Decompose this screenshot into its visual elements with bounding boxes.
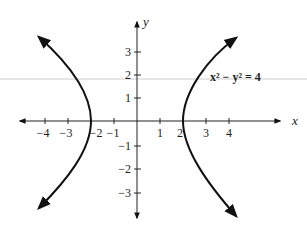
svg-text:3: 3 [203,126,209,140]
hyperbola-left-branch [39,37,91,208]
y-axis-label: y [141,14,149,29]
y-tick-labels: 3 2 1 −1 −2 −3 [118,45,131,200]
svg-text:2: 2 [177,126,183,140]
svg-text:4: 4 [226,126,232,140]
svg-text:−3: −3 [118,186,131,200]
svg-text:2: 2 [125,68,131,82]
equation-label: x² − y² = 4 [210,70,261,84]
x-tick-labels: −4 −3 −2 −1 1 2 3 4 [37,126,232,140]
svg-text:−1: −1 [118,139,131,153]
svg-text:−3: −3 [60,126,73,140]
svg-text:1: 1 [157,126,163,140]
hyperbola-plot: x y −4 −3 −2 −1 1 2 3 4 3 2 1 −1 −2 −3 [0,0,307,231]
svg-text:−4: −4 [37,126,50,140]
x-axis-label: x [291,113,298,128]
svg-text:−1: −1 [107,126,120,140]
svg-text:−2: −2 [118,162,131,176]
svg-text:3: 3 [125,45,131,59]
svg-text:1: 1 [125,91,131,105]
